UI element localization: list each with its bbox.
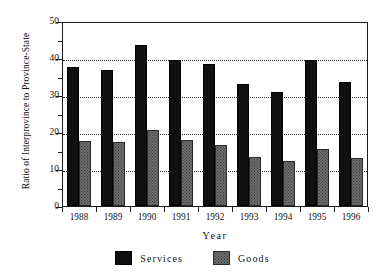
- bar-goods-1993: [249, 157, 261, 206]
- bar-services-1993: [237, 84, 249, 206]
- bar-goods-1989: [113, 142, 125, 206]
- plot-area: [62, 22, 368, 207]
- bar-services-1996: [339, 82, 351, 206]
- bar-services-1989: [101, 70, 113, 206]
- y-tick-label-20: 20: [29, 128, 59, 138]
- y-tick-label-50: 50: [29, 17, 59, 27]
- x-tick-label-1996: 1996: [331, 212, 371, 222]
- legend-swatch-goods: [213, 251, 230, 265]
- y-tick-label-30: 30: [29, 91, 59, 101]
- bar-services-1990: [135, 45, 147, 206]
- legend-swatch-services: [115, 251, 132, 265]
- bar-goods-1991: [181, 140, 193, 206]
- legend-item-goods[interactable]: Goods: [213, 251, 270, 265]
- bar-services-1994: [271, 92, 283, 206]
- bar-goods-1994: [283, 161, 295, 207]
- chart-legend: ServicesGoods: [0, 247, 385, 269]
- y-tick-label-40: 40: [29, 54, 59, 64]
- bar-services-1995: [305, 60, 317, 206]
- bar-services-1988: [67, 67, 79, 206]
- bar-goods-1988: [79, 141, 91, 206]
- gridline-40: [63, 60, 367, 61]
- y-axis-title: Ratio of Interprovince to Province-State: [21, 16, 31, 206]
- x-axis-title: Year: [62, 230, 368, 241]
- legend-item-services[interactable]: Services: [115, 251, 183, 265]
- legend-label-services: Services: [140, 253, 183, 264]
- bar-goods-1995: [317, 149, 329, 206]
- bar-services-1992: [203, 64, 215, 206]
- bar-goods-1990: [147, 130, 159, 206]
- bar-chart-figure: Ratio of Interprovince to Province-State…: [0, 0, 385, 275]
- legend-label-goods: Goods: [238, 253, 270, 264]
- y-tick-label-10: 10: [29, 165, 59, 175]
- bar-goods-1996: [351, 158, 363, 206]
- bar-goods-1992: [215, 145, 227, 206]
- bar-services-1991: [169, 60, 181, 206]
- y-tick-label-0: 0: [29, 202, 59, 212]
